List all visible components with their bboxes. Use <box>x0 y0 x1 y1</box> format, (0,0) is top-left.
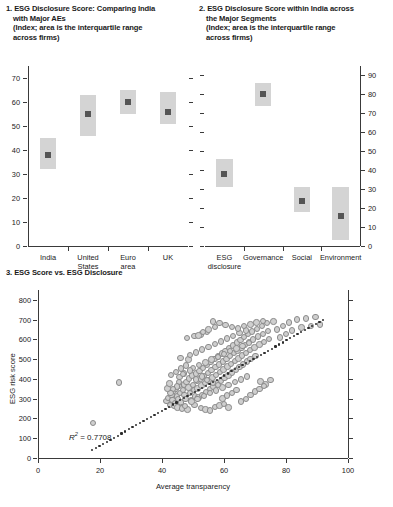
p3plot-ytick <box>33 379 37 380</box>
p3plot-xtick-label: 0 <box>20 466 56 475</box>
p3plot-data-point <box>116 379 122 385</box>
p1plot-ytick-mirror <box>189 246 193 247</box>
p2plot-xtick <box>244 247 245 251</box>
p3plot-data-point <box>225 404 231 410</box>
p3plot-data-point <box>265 328 271 334</box>
p3plot-ytick <box>33 399 37 400</box>
p3plot-data-point <box>266 336 272 342</box>
p2plot-ytick-label: 30 <box>368 185 376 194</box>
p3plot-xtick-label: 20 <box>82 466 118 475</box>
p3plot-data-point <box>194 396 200 402</box>
p3plot-ytick-label: 100 <box>6 434 31 443</box>
panel-1-plot-area: 010203040506070IndiaUnitedStatesEuroarea… <box>28 66 188 246</box>
p3plot-trendline-dot <box>113 437 115 439</box>
panel-1-title-line1: 1. ESG Disclosure Score: Comparing India <box>6 4 155 13</box>
panel-1-title-line3: (Index; area is the interquartile range <box>6 23 142 32</box>
p3plot-trendline-dot <box>120 432 122 434</box>
p2plot-ytick-mirror <box>200 151 204 152</box>
p3plot-trendline-dot <box>307 327 309 329</box>
p3plot-trendline-dot <box>175 401 177 403</box>
p1plot-ytick <box>23 198 27 199</box>
p1plot-ytick-mirror <box>189 78 193 79</box>
p3plot-data-point <box>253 319 259 325</box>
p3plot-trendline-dot <box>318 321 320 323</box>
panel-2-title-line4: across firms) <box>199 33 252 42</box>
p2plot-ytick-label: 0 <box>368 242 372 251</box>
p2plot-ytick-mirror <box>200 132 204 133</box>
p1plot-ytick-mirror <box>189 102 193 103</box>
p1plot-ytick-label: 20 <box>0 194 20 203</box>
p2plot-median-marker <box>221 171 227 177</box>
p2plot-ytick <box>361 246 365 247</box>
p2plot-ytick-label: 20 <box>368 204 376 213</box>
p2plot-xtick <box>321 247 322 251</box>
p3plot-xtick-label: 60 <box>206 466 242 475</box>
p3plot-ytick-mirror <box>349 339 353 340</box>
p3plot-ytick-mirror <box>349 359 353 360</box>
p3plot-trendline-dot <box>124 430 126 432</box>
p2plot-ytick-label: 50 <box>368 147 376 156</box>
p3plot-ytick <box>33 300 37 301</box>
p1plot-y-axis <box>28 66 29 246</box>
p3plot-trendline-dot <box>131 426 133 428</box>
p3plot-data-point <box>267 377 273 383</box>
p1plot-xtick <box>68 247 69 251</box>
p3plot-data-point <box>177 355 183 361</box>
p3plot-xtick-label: 40 <box>144 466 180 475</box>
p2plot-ytick-mirror <box>200 227 204 228</box>
p3plot-data-point <box>212 324 218 330</box>
p3plot-ytick-mirror <box>349 458 353 459</box>
p3plot-trendline-dot <box>153 414 155 416</box>
p3plot-data-point <box>294 316 300 322</box>
p3plot-trendline-dot <box>102 443 104 445</box>
p3plot-ytick <box>33 458 37 459</box>
p3plot-data-point <box>289 327 295 333</box>
p3plot-trendline-dot <box>293 335 295 337</box>
p3plot-trendline-dot <box>263 352 265 354</box>
p3plot-ytick-mirror <box>349 320 353 321</box>
p1plot-ytick-mirror <box>189 150 193 151</box>
p3plot-trendline-dot <box>241 364 243 366</box>
p3plot-trendline-dot <box>205 385 207 387</box>
p3plot-data-point <box>166 380 172 386</box>
p2plot-ytick-mirror <box>200 170 204 171</box>
p3plot-xtick <box>348 459 349 463</box>
p3plot-trendline-dot <box>142 420 144 422</box>
p2plot-ytick <box>361 94 365 95</box>
p3plot-data-point <box>184 335 190 341</box>
p3plot-trendline-dot <box>172 403 174 405</box>
p3plot-y-axis-title: ESG risk score <box>8 353 17 404</box>
p2plot-ytick <box>361 227 365 228</box>
p2plot-median-marker <box>299 198 305 204</box>
p2plot-median-marker <box>338 213 344 219</box>
p3plot-trendline-dot <box>271 348 273 350</box>
p3plot-data-point <box>274 326 280 332</box>
p3plot-data-point <box>246 340 252 346</box>
p1plot-ytick-mirror <box>189 198 193 199</box>
panel-2-title: 2. ESG Disclosure Score within India acr… <box>199 4 391 42</box>
panel-1-title-line4: across firms) <box>6 33 59 42</box>
p3plot-trendline-dot <box>322 319 324 321</box>
p3plot-ytick-mirror <box>349 438 353 439</box>
p3plot-x-axis <box>38 458 348 459</box>
panel-3-plot-area: 0100200300400500600700800020406080100Ave… <box>38 290 348 458</box>
p3plot-r2-annotation: R2 = 0.7708 <box>69 431 112 442</box>
p1plot-ytick <box>23 174 27 175</box>
p2plot-ytick-label: 70 <box>368 109 376 118</box>
p3plot-trendline-dot <box>208 383 210 385</box>
p3plot-data-point <box>233 387 239 393</box>
p1plot-ytick-label: 50 <box>0 122 20 131</box>
p1plot-median-marker <box>125 99 131 105</box>
p3plot-trendline-dot <box>157 412 159 414</box>
p3plot-ytick-label: 0 <box>6 454 31 463</box>
p2plot-ytick-label: 80 <box>368 90 376 99</box>
p3plot-trendline-dot <box>282 341 284 343</box>
p3plot-trendline-dot <box>164 408 166 410</box>
p3plot-trendline-dot <box>227 372 229 374</box>
p3plot-trendline-dot <box>216 379 218 381</box>
p1plot-median-marker <box>45 152 51 158</box>
p3plot-xtick-label: 100 <box>330 466 366 475</box>
p3plot-y-axis-right <box>348 290 349 458</box>
p3plot-x-axis-title: Average transparency <box>143 482 243 491</box>
p3plot-ytick <box>33 359 37 360</box>
